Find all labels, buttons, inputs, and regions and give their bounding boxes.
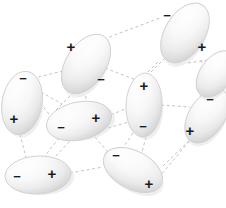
dipole-bottom-center xyxy=(95,138,173,204)
interaction-line xyxy=(52,139,72,160)
dipole-center-left xyxy=(43,95,119,148)
dipole-left xyxy=(0,68,49,141)
interaction-line xyxy=(104,18,160,39)
dipole-diagram: +−+−+−+−+−+−+−+− xyxy=(0,0,226,208)
dipole-diagram-canvas: +−+−+−+−+−+−+−+− xyxy=(0,0,226,208)
dipole-top-center xyxy=(50,25,123,105)
interaction-line xyxy=(70,167,103,173)
interaction-line xyxy=(44,138,59,157)
dipole-center xyxy=(124,72,165,140)
interaction-line xyxy=(147,58,165,76)
dipole-bottom-left xyxy=(4,154,75,197)
interaction-line xyxy=(160,137,193,176)
interaction-line xyxy=(41,92,62,104)
dipoles-group xyxy=(0,0,226,205)
interaction-line xyxy=(161,105,190,107)
interaction-line xyxy=(38,71,63,77)
